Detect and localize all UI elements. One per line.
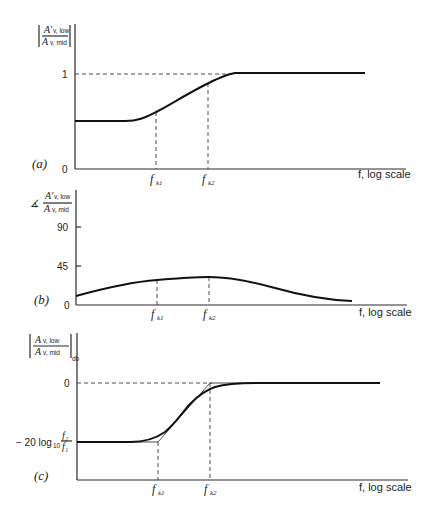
svg-text:v, low: v, low: [54, 193, 70, 200]
frequency-response-diagram: A′ v, low A v, mid 1 0 (a) f k1 f k2 f, …: [0, 0, 431, 517]
svg-text:f: f: [151, 307, 156, 321]
panel-a-xlabel: f, log scale: [358, 168, 411, 180]
svg-text:f: f: [150, 172, 155, 186]
svg-text:f₁: f₁: [62, 441, 68, 452]
panel-b-tick-0: 0: [64, 300, 70, 311]
panel-b: ∡ A′ v, low A v, mid 90 45 0 (b) f k1 f …: [30, 190, 412, 322]
svg-text:k2: k2: [208, 179, 215, 187]
svg-text:k2: k2: [209, 314, 216, 322]
svg-text:db: db: [72, 355, 80, 362]
svg-text:A: A: [43, 203, 51, 214]
svg-text:k1: k1: [158, 489, 165, 497]
svg-text:v, low: v, low: [43, 337, 59, 344]
panel-a-label: (a): [32, 156, 47, 171]
svg-text:10: 10: [53, 442, 61, 449]
panel-a-fk2-label: f k2: [202, 172, 215, 187]
svg-text:A: A: [34, 334, 42, 345]
panel-c-ylabel: A v, low A v, mid db: [30, 334, 80, 362]
panel-a-fk1-label: f k1: [150, 172, 163, 187]
svg-text:k2: k2: [210, 489, 217, 497]
panel-c-fk2-label: f k2: [204, 482, 217, 497]
svg-text:v, mid: v, mid: [50, 39, 67, 46]
panel-c: A v, low A v, mid db 0 − 20 log 10 f₂ f₁…: [16, 333, 412, 497]
svg-text:f₂: f₂: [62, 430, 69, 441]
panel-a-magnitude-curve: [75, 73, 365, 121]
panel-b-fk1-label: f k1: [151, 307, 164, 322]
panel-a: A′ v, low A v, mid 1 0 (a) f k1 f k2 f, …: [32, 24, 411, 187]
panel-c-actual-curve: [77, 383, 380, 442]
panel-c-fk1-label: f k1: [152, 482, 165, 497]
panel-c-asymptote: [77, 383, 380, 442]
svg-text:v, low: v, low: [53, 27, 69, 34]
svg-text:− 20 log: − 20 log: [16, 437, 52, 448]
panel-a-tick-0: 0: [62, 164, 68, 175]
svg-text:f: f: [203, 307, 208, 321]
svg-text:v, mid: v, mid: [43, 349, 60, 356]
panel-b-fk2-label: f k2: [203, 307, 216, 322]
panel-a-tick-1: 1: [62, 69, 68, 80]
svg-text:f: f: [202, 172, 207, 186]
svg-text:A: A: [34, 346, 42, 357]
panel-b-tick-45: 45: [57, 261, 69, 272]
svg-text:k1: k1: [157, 314, 164, 322]
panel-b-label: (b): [34, 292, 49, 307]
panel-b-ylabel: ∡ A′ v, low A v, mid: [30, 190, 72, 214]
svg-text:A′: A′: [44, 190, 54, 201]
panel-b-xlabel: f, log scale: [359, 306, 412, 318]
panel-c-tick-0: 0: [64, 378, 70, 389]
panel-c-tick-low: − 20 log 10 f₂ f₁: [16, 430, 72, 452]
panel-c-xlabel: f, log scale: [359, 481, 412, 493]
svg-text:A′: A′: [43, 24, 53, 35]
panel-c-label: (c): [34, 468, 48, 483]
svg-text:v, mid: v, mid: [52, 206, 69, 213]
svg-text:A: A: [41, 36, 49, 47]
panel-a-ylabel: A′ v, low A v, mid: [39, 24, 70, 47]
svg-text:f: f: [152, 482, 157, 496]
svg-text:k1: k1: [156, 179, 163, 187]
svg-text:f: f: [204, 482, 209, 496]
angle-icon: ∡: [30, 198, 39, 209]
panel-b-phase-curve: [76, 277, 352, 301]
panel-b-tick-90: 90: [57, 222, 69, 233]
